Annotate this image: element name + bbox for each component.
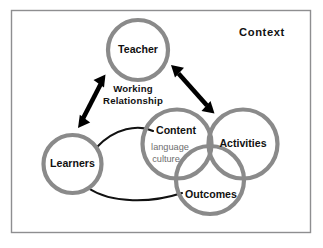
diagram-canvas: Context Teacher Learners Cont xyxy=(0,0,323,248)
label-working-relationship-line2: Relationship xyxy=(103,95,163,106)
label-content-culture: culture xyxy=(152,154,180,164)
label-teacher: Teacher xyxy=(118,43,158,55)
label-outcomes: Outcomes xyxy=(185,188,237,200)
context-diagram: Context Teacher Learners Cont xyxy=(0,0,323,248)
label-working-relationship-line1: Working xyxy=(113,83,153,94)
label-learners: Learners xyxy=(50,157,95,169)
label-content: Content xyxy=(156,124,196,136)
label-activities: Activities xyxy=(219,137,266,149)
label-content-language: language xyxy=(151,142,189,152)
context-label: Context xyxy=(239,26,285,38)
